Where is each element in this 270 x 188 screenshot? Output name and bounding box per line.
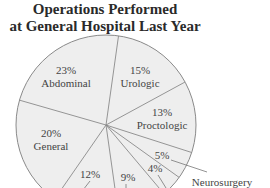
neurosurgery-pct: 4%	[148, 162, 163, 174]
urologic-pct: 15%	[130, 64, 150, 76]
abdominal-label: Abdominal	[41, 77, 91, 89]
pie-chart: 23% Abdominal 15% Urologic 13% Proctolog…	[0, 0, 270, 188]
general-label: General	[34, 140, 69, 152]
proctologic-label: Proctologic	[137, 119, 188, 131]
urologic-label: Urologic	[120, 77, 159, 89]
slice-5pct: 5%	[155, 149, 170, 161]
slice-12pct: 12%	[80, 168, 100, 180]
proctologic-pct: 13%	[152, 106, 172, 118]
abdominal-pct: 23%	[56, 64, 76, 76]
general-pct: 20%	[41, 127, 61, 139]
slice-9pct: 9%	[121, 171, 136, 183]
neurosurgery-label: Neurosurgery	[192, 176, 253, 188]
